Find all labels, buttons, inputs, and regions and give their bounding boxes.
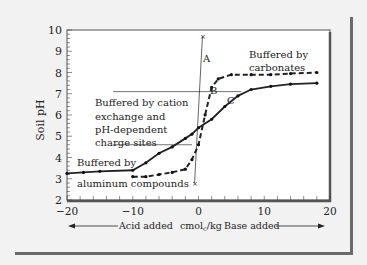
y-tick-label: 3 <box>55 173 62 186</box>
x-tick-label: 20 <box>323 205 336 217</box>
base-added-label: Base added <box>224 220 280 231</box>
y-tick-labels: 2345678910 <box>48 24 62 207</box>
y-tick-label: 6 <box>55 109 62 122</box>
data-point <box>157 152 160 155</box>
y-tick-label: 4 <box>55 152 62 165</box>
aluminum-label-1: Buffered by <box>77 157 136 168</box>
data-point <box>184 137 187 140</box>
units-label: cmolc/kg <box>180 220 222 233</box>
label-a: A <box>202 53 211 64</box>
y-tick-label: 10 <box>48 24 62 37</box>
data-point <box>289 83 292 86</box>
y-tick-label: 8 <box>55 67 62 80</box>
data-point <box>131 169 134 172</box>
x-marker-icon: × <box>192 180 198 188</box>
data-point <box>184 168 187 171</box>
x-tick-label: −10 <box>122 205 144 217</box>
data-point <box>250 73 253 76</box>
acid-added-label: Acid added <box>118 220 173 231</box>
y-tick-label: 5 <box>55 130 62 143</box>
x-tick-label: 0 <box>195 205 202 217</box>
carbonates-label-2: carbonates <box>249 62 305 73</box>
data-point <box>269 85 272 88</box>
cation-label-1: Buffered by cation <box>95 97 189 108</box>
carbonates-label-1: Buffered by <box>249 49 308 60</box>
data-point <box>82 171 85 174</box>
cation-label-2: exchange and <box>95 111 166 122</box>
y-tick-label: 7 <box>55 88 62 101</box>
data-point <box>315 71 318 74</box>
y-axis-label: Soil pH <box>34 99 47 140</box>
x-tick-labels: −20−1001020 <box>56 205 337 217</box>
x-marker-icon: × <box>200 33 206 41</box>
data-point <box>171 145 174 148</box>
data-point <box>236 94 239 97</box>
data-point <box>190 158 193 161</box>
soil-ph-chart: 2345678910 −20−1001020 Soil pH ×× A B C … <box>0 0 367 265</box>
data-point <box>190 133 193 136</box>
data-point <box>98 170 101 173</box>
data-point <box>65 172 68 175</box>
acid-arrow-head-icon <box>68 224 75 229</box>
data-point <box>144 161 147 164</box>
data-point <box>250 88 253 91</box>
base-arrow-head-icon <box>318 224 325 229</box>
data-point <box>157 173 160 176</box>
data-point <box>203 113 206 116</box>
data-point <box>223 105 226 108</box>
x-tick-label: −20 <box>56 205 78 217</box>
label-c: C <box>227 95 235 106</box>
data-point <box>171 171 174 174</box>
x-tick-label: 10 <box>258 205 271 217</box>
cation-label-3: pH-dependent <box>95 124 167 135</box>
label-b: B <box>210 85 217 96</box>
data-point <box>269 73 272 76</box>
data-point <box>230 73 233 76</box>
cation-label-4: charge sites <box>95 137 157 148</box>
data-point <box>217 77 220 80</box>
y-tick-label: 9 <box>55 45 62 58</box>
data-point <box>315 82 318 85</box>
aluminum-label-2: aluminum compounds <box>77 178 189 189</box>
data-point <box>197 143 200 146</box>
data-point <box>210 118 213 121</box>
